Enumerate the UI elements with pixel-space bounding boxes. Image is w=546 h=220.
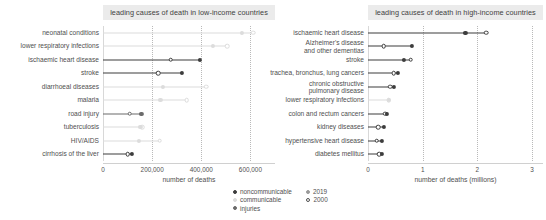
chart-panel-low-income: leading causes of death in low-income co…: [0, 0, 278, 190]
chart-row: ischaemic heart disease: [368, 26, 543, 40]
marker-2019: [380, 152, 384, 156]
row-label: kidney diseases: [317, 124, 364, 131]
row-label: road injury: [68, 110, 99, 117]
marker-2019: [158, 98, 162, 102]
x-tick-label: 200,000: [141, 166, 164, 173]
legend-year-label: 2019: [313, 188, 327, 195]
row-connector-line: [103, 127, 142, 128]
panel-title-low-income: leading causes of death in low-income co…: [103, 5, 275, 20]
row-label: Alzheimer's disease and other dementias: [304, 39, 364, 54]
plot-area-high-income: ischaemic heart diseaseAlzheimer's disea…: [368, 26, 543, 161]
row-label: trachea, bronchus, lung cancers: [270, 70, 364, 77]
chart-row: kidney diseases: [368, 121, 543, 135]
row-label: hypertensive heart disease: [285, 137, 364, 144]
row-connector-line: [103, 73, 182, 74]
marker-2000: [204, 84, 209, 89]
legend-label: communicable: [240, 196, 281, 203]
row-connector-line: [368, 46, 412, 47]
legend-column-years: 20192000: [306, 188, 328, 212]
marker-2019: [198, 58, 202, 62]
row-label: lower respiratory infections: [21, 43, 99, 50]
marker-2019: [180, 71, 184, 75]
legend-swatch-icon: [233, 198, 237, 202]
marker-2019: [139, 112, 143, 116]
chart-row: road injury: [103, 107, 275, 121]
row-connector-line: [103, 32, 253, 33]
marker-2000: [382, 44, 387, 49]
x-tick-label: 400,000: [190, 166, 213, 173]
x-axis-line-low-income: [103, 163, 275, 164]
row-connector-line: [103, 140, 160, 141]
marker-2019: [385, 112, 389, 116]
x-tick-label: 1: [421, 166, 425, 173]
chart-row: stroke: [368, 53, 543, 67]
chart-row: malaria: [103, 94, 275, 108]
marker-2000: [127, 111, 132, 116]
row-label: ischaemic heart disease: [293, 29, 364, 36]
row-label: malaria: [77, 97, 99, 104]
row-label: stroke: [346, 56, 364, 63]
x-tick-label: 2: [476, 166, 480, 173]
row-label: neonatal conditions: [42, 29, 99, 36]
chart-legend: noncommunicablecommunicableinjuries 2019…: [233, 188, 328, 212]
row-label: ischaemic heart disease: [28, 56, 99, 63]
x-axis-title-low-income: number of deaths: [163, 176, 216, 183]
row-label: tuberculosis: [64, 124, 99, 131]
marker-2019: [130, 152, 134, 156]
chart-row: HIV/AIDS: [103, 134, 275, 148]
marker-2000: [251, 30, 256, 35]
legend-label: noncommunicable: [240, 188, 292, 195]
row-label: colon and rectum cancers: [289, 110, 365, 117]
x-tick-label: 0: [101, 166, 105, 173]
row-label: diabetes mellitus: [315, 151, 364, 158]
chart-row: lower respiratory infections: [368, 94, 543, 108]
marker-2019: [382, 125, 386, 129]
legend-column-categories: noncommunicablecommunicableinjuries: [233, 188, 292, 212]
plot-area-low-income: neonatal conditionslower respiratory inf…: [103, 26, 275, 161]
marker-2019: [380, 139, 384, 143]
legend-swatch-icon: [233, 190, 237, 194]
chart-row: diabetes mellitus: [368, 148, 543, 162]
chart-row: cirrhosis of the liver: [103, 148, 275, 162]
row-connector-line: [368, 32, 486, 33]
marker-2019: [395, 71, 399, 75]
x-tick-label: 3: [530, 166, 534, 173]
marker-2019: [392, 85, 396, 89]
marker-2000: [225, 44, 230, 49]
marker-2019: [161, 85, 165, 89]
marker-2019: [402, 58, 406, 62]
row-label: lower respiratory infections: [286, 97, 364, 104]
chart-row: stroke: [103, 67, 275, 81]
x-tick-label: 600,000: [239, 166, 262, 173]
chart-row: Alzheimer's disease and other dementias: [368, 40, 543, 54]
legend-year-marker-icon: [306, 190, 310, 194]
legend-item-category: noncommunicable: [233, 188, 292, 195]
x-axis-title-high-income: number of deaths (millions): [415, 176, 497, 183]
chart-panel-high-income: leading causes of death in high-income c…: [268, 0, 546, 190]
marker-2000: [156, 71, 161, 76]
legend-swatch-icon: [233, 206, 237, 210]
marker-2019: [240, 31, 244, 35]
legend-item-category: communicable: [233, 196, 292, 203]
legend-label: injuries: [240, 205, 260, 212]
row-label: HIV/AIDS: [71, 137, 99, 144]
marker-2000: [376, 125, 381, 130]
row-label: stroke: [81, 70, 99, 77]
legend-year-label: 2000: [313, 196, 327, 203]
marker-2000: [484, 30, 489, 35]
chart-row: chronic obstructive pulmonary disease: [368, 80, 543, 94]
marker-2019: [137, 139, 141, 143]
chart-row: trachea, bronchus, lung cancers: [368, 67, 543, 81]
marker-2019: [463, 31, 467, 35]
marker-2000: [168, 57, 173, 62]
chart-row: tuberculosis: [103, 121, 275, 135]
chart-row: hypertensive heart disease: [368, 134, 543, 148]
row-label: chronic obstructive pulmonary disease: [309, 79, 364, 94]
row-label: diarrhoeal diseases: [42, 83, 99, 90]
panel-title-high-income: leading causes of death in high-income c…: [368, 5, 543, 20]
marker-2000: [184, 98, 189, 103]
row-connector-line: [103, 46, 227, 47]
chart-row: lower respiratory infections: [103, 40, 275, 54]
chart-row: diarrhoeal diseases: [103, 80, 275, 94]
x-axis-line-high-income: [368, 163, 543, 164]
